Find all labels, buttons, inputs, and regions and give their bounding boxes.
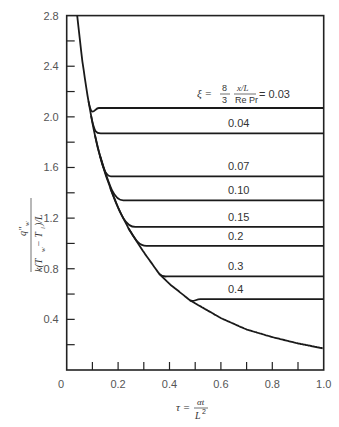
curve-xi-0-2 — [128, 228, 323, 246]
svg-text:ξ =: ξ = — [197, 87, 212, 100]
curve-xi-0-15 — [110, 188, 323, 227]
svg-text:q″: q″ — [17, 226, 28, 236]
svg-text:τ =: τ = — [176, 401, 190, 413]
plot-frame — [67, 16, 324, 370]
y-tick-label: 1.2 — [43, 212, 58, 224]
curve-label: 0.04 — [228, 117, 249, 129]
curve-labels: 0.040.070.100.150.20.30.4 — [228, 117, 249, 295]
y-tick-label: 2.0 — [43, 111, 58, 123]
svg-text:− T: − T — [33, 231, 44, 247]
curve-label: 0.10 — [228, 184, 249, 196]
svg-text:L: L — [194, 410, 201, 421]
curves — [77, 16, 324, 349]
svg-text:2: 2 — [202, 408, 206, 415]
curve-xi-0-07 — [95, 135, 324, 176]
svg-text:8: 8 — [222, 83, 227, 93]
curve-label: 0.07 — [228, 160, 249, 172]
svg-text:3: 3 — [222, 95, 227, 105]
svg-text:Re Pr: Re Pr — [235, 95, 258, 105]
svg-text:αt: αt — [197, 397, 205, 407]
svg-text:i: i — [39, 227, 47, 229]
curve-xi-0-04 — [91, 116, 324, 133]
curve-xi-0-3 — [159, 274, 323, 277]
y-tick-label: 0.8 — [43, 263, 58, 275]
y-tick-label: 0.4 — [43, 313, 58, 325]
y-tick-label: 1.6 — [43, 161, 58, 173]
x-tick-label: 1.0 — [316, 378, 331, 390]
svg-text:w: w — [23, 221, 31, 226]
svg-text:k(T: k(T — [33, 257, 45, 272]
heat-flux-chart: 0.40.81.21.62.02.42.8 0.20.40.60.81.0 0.… — [0, 0, 339, 427]
x-tick-label: 0.8 — [265, 378, 280, 390]
svg-text:)/L: )/L — [33, 214, 45, 227]
x-axis-title: τ = αt L 2 — [176, 397, 208, 421]
y-axis-ticks: 0.40.81.21.62.02.42.8 — [43, 10, 74, 345]
x-tick-label: 0.4 — [162, 378, 177, 390]
svg-text:x/L: x/L — [236, 83, 249, 93]
x-tick-label: 0.2 — [110, 378, 125, 390]
x-axis-ticks: 0.20.40.60.81.0 — [92, 362, 331, 390]
y-tick-label: 2.4 — [43, 60, 58, 72]
y-tick-label: 2.8 — [43, 10, 58, 22]
curve-label: 0.4 — [228, 283, 243, 295]
x-tick-label: 0.6 — [213, 378, 228, 390]
xi-parameter-label: ξ = 8 3 x/L Re Pr = 0.03 — [197, 83, 290, 105]
curve-xi-0-03 — [89, 101, 324, 111]
origin-label: 0 — [58, 378, 64, 390]
curve-xi-0-4 — [190, 299, 324, 301]
y-axis-title: q″ w k(T w − T i )/L — [17, 198, 47, 272]
curve-xi-0-10 — [100, 156, 324, 200]
curve-label: 0.2 — [228, 230, 243, 242]
curve-label: 0.3 — [228, 260, 243, 272]
curve-label: 0.15 — [228, 211, 249, 223]
svg-text:= 0.03: = 0.03 — [259, 88, 290, 100]
